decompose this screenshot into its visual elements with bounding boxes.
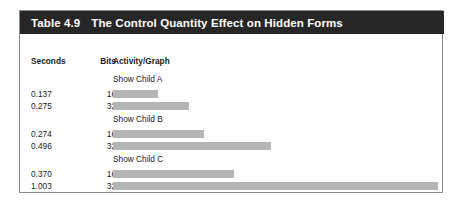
column-header-row: Seconds Bits Activity/Graph — [20, 56, 442, 69]
column-header-bits: Bits — [89, 56, 116, 66]
table-row: 0.137 16 — [20, 88, 442, 100]
bar-graph — [113, 102, 189, 110]
table-header-bar: Table 4.9 The Control Quantity Effect on… — [20, 11, 444, 34]
cell-seconds: 0.137 — [31, 89, 52, 99]
cell-bits: 16 — [89, 89, 116, 99]
table-row: 0.274 16 — [20, 128, 442, 140]
cell-bits: 16 — [89, 169, 116, 179]
group-label: Show Child A — [113, 74, 162, 84]
column-header-seconds: Seconds — [31, 56, 66, 66]
table-card: Table 4.9 The Control Quantity Effect on… — [19, 10, 443, 193]
bar-graph — [113, 130, 204, 138]
table-row: 1.003 32 — [20, 180, 442, 192]
table-body: Seconds Bits Activity/Graph Show Child A… — [20, 34, 442, 192]
table-row: 0.370 16 — [20, 168, 442, 180]
cell-bits: 32 — [89, 101, 116, 111]
cell-seconds: 0.496 — [31, 141, 52, 151]
column-header-activity-graph: Activity/Graph — [113, 56, 170, 66]
bar-graph — [113, 142, 271, 150]
cell-bits: 16 — [89, 129, 116, 139]
cell-seconds: 0.274 — [31, 129, 52, 139]
table-row: 0.275 32 — [20, 100, 442, 112]
bar-graph — [113, 182, 438, 190]
cell-seconds: 0.275 — [31, 101, 52, 111]
table-row: 0.496 32 — [20, 140, 442, 152]
cell-seconds: 1.003 — [31, 181, 52, 191]
table-header-text-group: Table 4.9 The Control Quantity Effect on… — [31, 11, 343, 34]
cell-bits: 32 — [89, 141, 116, 151]
bar-graph — [113, 90, 158, 98]
table-title: The Control Quantity Effect on Hidden Fo… — [91, 17, 343, 29]
cell-seconds: 0.370 — [31, 169, 52, 179]
group-label: Show Child B — [113, 114, 163, 124]
group-label: Show Child C — [113, 154, 163, 164]
table-number-label: Table 4.9 — [31, 17, 80, 29]
bar-graph — [113, 170, 234, 178]
cell-bits: 32 — [89, 181, 116, 191]
